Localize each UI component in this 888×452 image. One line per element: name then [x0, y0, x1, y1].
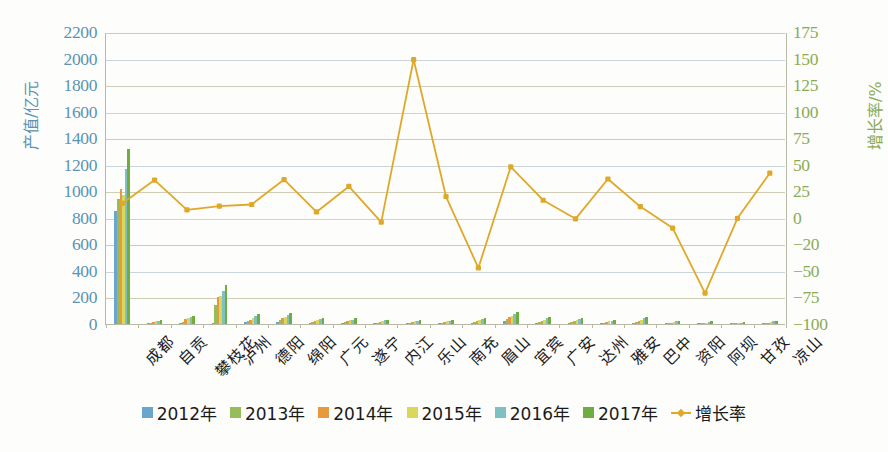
x-axis-tick	[106, 324, 107, 328]
y-axis-left-tick: 1600	[37, 104, 97, 122]
x-axis-label: 雅安	[626, 330, 665, 369]
legend-item[interactable]: 2017年	[583, 400, 658, 425]
growth-rate-marker	[314, 209, 319, 214]
growth-rate-marker	[476, 265, 481, 270]
growth-rate-marker	[152, 177, 157, 182]
growth-rate-marker	[184, 207, 189, 212]
x-axis-label: 眉山	[496, 330, 535, 369]
legend-item[interactable]: 2012年	[142, 400, 217, 425]
legend-label: 增长率	[695, 400, 746, 425]
growth-rate-marker	[379, 220, 384, 225]
chart-container: 产值/亿元 增长率/% 0200400600800100012001400160…	[0, 0, 888, 452]
growth-rate-marker	[670, 226, 675, 231]
y-axis-left-tick: 1400	[37, 130, 97, 148]
y-axis-right-title: 增长率/%	[862, 81, 886, 150]
y-axis-left-tick: 2000	[37, 51, 97, 69]
x-axis-tick	[527, 324, 528, 328]
y-axis-right-tick: −75	[793, 290, 855, 308]
y-axis-right-tick: −100	[793, 316, 855, 334]
y-axis-left-tick: 0	[37, 316, 97, 334]
x-axis-label: 广元	[334, 330, 373, 369]
y-axis-left-tick: 600	[37, 237, 97, 255]
y-axis-right-tick: 150	[793, 51, 855, 69]
x-axis-tick	[559, 324, 560, 328]
growth-rate-marker	[443, 194, 448, 199]
x-axis-tick	[138, 324, 139, 328]
legend-swatch-icon	[230, 407, 241, 418]
legend-label: 2016年	[510, 400, 570, 425]
y-axis-right-tick: 75	[793, 130, 855, 148]
x-axis-label: 广安	[561, 330, 600, 369]
x-axis-tick	[462, 324, 463, 328]
y-axis-right-tick: 50	[793, 157, 855, 175]
growth-rate-marker	[282, 177, 287, 182]
x-axis-label: 凉山	[787, 330, 826, 369]
y-axis-right-tick: 125	[793, 77, 855, 95]
legend-item[interactable]: 2016年	[495, 400, 570, 425]
legend-swatch-icon	[142, 407, 153, 418]
legend-swatch-icon	[583, 407, 594, 418]
x-axis-tick	[203, 324, 204, 328]
x-axis-tick	[754, 324, 755, 328]
growth-rate-marker	[217, 203, 222, 208]
y-axis-left-tick: 1200	[37, 157, 97, 175]
x-axis-tick	[300, 324, 301, 328]
growth-rate-marker	[767, 171, 772, 176]
y-axis-right-tick: 0	[793, 210, 855, 228]
x-axis-label: 绵阳	[302, 330, 341, 369]
legend-line-marker-icon	[671, 407, 691, 418]
y-axis-right-tick: −20	[793, 237, 855, 255]
legend-label: 2017年	[598, 400, 658, 425]
growth-rate-marker	[346, 184, 351, 189]
growth-rate-line	[106, 33, 786, 325]
x-axis-label: 自贡	[172, 330, 211, 369]
x-axis-tick	[689, 324, 690, 328]
growth-rate-marker	[249, 202, 254, 207]
growth-rate-marker	[605, 176, 610, 181]
x-axis-tick	[721, 324, 722, 328]
x-axis-label: 南充	[464, 330, 503, 369]
y-axis-left-tick: 1800	[37, 77, 97, 95]
legend-swatch-icon	[495, 407, 506, 418]
x-axis-tick	[171, 324, 172, 328]
growth-rate-marker	[702, 291, 707, 296]
legend-label: 2014年	[333, 400, 393, 425]
plot-area	[105, 33, 785, 325]
legend-label: 2012年	[157, 400, 217, 425]
x-axis-label: 成都	[140, 330, 179, 369]
y-axis-right-tick: 100	[793, 104, 855, 122]
legend-swatch-icon	[318, 407, 329, 418]
growth-rate-marker	[638, 204, 643, 209]
growth-rate-marker	[541, 198, 546, 203]
y-axis-left-tick: 1000	[37, 184, 97, 202]
x-axis-label: 德阳	[269, 330, 308, 369]
y-axis-left-tick: 400	[37, 263, 97, 281]
growth-rate-marker	[120, 201, 125, 206]
x-axis-label: 阿坝	[723, 330, 762, 369]
y-axis-left-tick: 800	[37, 210, 97, 228]
x-axis-label: 宜宾	[528, 330, 567, 369]
x-axis-label: 巴中	[658, 330, 697, 369]
growth-rate-marker	[573, 216, 578, 221]
x-axis-label: 乐山	[431, 330, 470, 369]
x-axis-tick	[333, 324, 334, 328]
x-axis-tick	[430, 324, 431, 328]
x-axis-tick	[624, 324, 625, 328]
legend-item[interactable]: 2015年	[407, 400, 482, 425]
legend-item[interactable]: 2014年	[318, 400, 393, 425]
growth-rate-marker	[411, 57, 416, 62]
legend-item[interactable]: 增长率	[671, 400, 746, 425]
legend-label: 2013年	[245, 400, 305, 425]
legend-item[interactable]: 2013年	[230, 400, 305, 425]
growth-rate-marker	[735, 216, 740, 221]
growth-rate-polyline	[122, 60, 770, 294]
x-axis-tick	[268, 324, 269, 328]
y-axis-right-tick: 175	[793, 24, 855, 42]
chart-legend: 2012年2013年2014年2015年2016年2017年增长率	[0, 400, 888, 425]
x-axis-label: 内江	[399, 330, 438, 369]
x-axis-label: 甘孜	[755, 330, 794, 369]
y-axis-right-tick: 25	[793, 184, 855, 202]
y-axis-right-tick: −50	[793, 263, 855, 281]
x-axis-tick	[236, 324, 237, 328]
right-axis-spine	[786, 33, 787, 325]
